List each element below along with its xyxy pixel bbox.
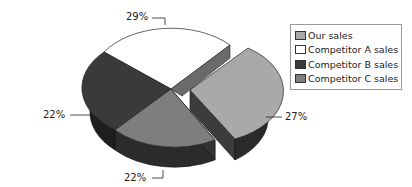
data-label-competitor-a: 29% — [126, 11, 148, 22]
legend-swatch — [295, 31, 306, 40]
legend-item-our-sales: Our sales — [295, 28, 397, 43]
legend-swatch — [295, 45, 306, 54]
legend-label: Competitor A sales — [308, 44, 398, 55]
leader-line-bottom — [152, 170, 163, 178]
legend-swatch — [295, 74, 306, 83]
data-label-competitor-b: 22% — [43, 109, 65, 120]
legend-swatch — [295, 60, 306, 69]
legend-label: Competitor B sales — [308, 59, 398, 70]
legend: Our sales Competitor A sales Competitor … — [290, 24, 402, 90]
legend-item-competitor-b: Competitor B sales — [295, 57, 397, 72]
legend-item-competitor-c: Competitor C sales — [295, 72, 397, 87]
leader-line-top — [152, 18, 165, 25]
legend-label: Competitor C sales — [308, 73, 398, 84]
data-label-our-sales: 27% — [285, 111, 307, 122]
legend-label: Our sales — [308, 30, 353, 41]
legend-item-competitor-a: Competitor A sales — [295, 43, 397, 58]
data-label-competitor-c: 22% — [124, 172, 146, 183]
